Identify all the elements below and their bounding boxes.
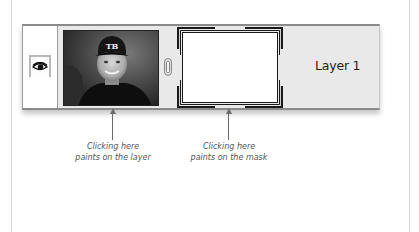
caption-mask-line2: paints on the mask — [169, 153, 289, 164]
pointer-line-mask — [228, 113, 229, 140]
caption-layer: Clicking here paints on the layer — [53, 142, 173, 163]
layer-mask-thumbnail[interactable] — [177, 27, 283, 108]
caption-mask: Clicking here paints on the mask — [169, 142, 289, 163]
layer-row[interactable]: TB Layer 1 — [22, 24, 380, 110]
layer-thumbnail[interactable]: TB — [63, 30, 159, 106]
page-margin-rule-left — [11, 0, 12, 232]
layer-name-label[interactable]: Layer 1 — [315, 58, 360, 73]
arrow-up-icon — [226, 108, 232, 114]
arrow-up-icon — [110, 108, 116, 114]
visibility-column — [23, 26, 58, 108]
caption-mask-line1: Clicking here — [169, 142, 289, 153]
page-margin-rule-right — [409, 0, 410, 232]
eye-icon — [32, 62, 48, 72]
svg-text:TB: TB — [106, 41, 119, 51]
visibility-toggle[interactable] — [29, 55, 51, 77]
caption-layer-line2: paints on the layer — [53, 153, 173, 164]
mask-preview — [182, 32, 278, 103]
chain-link-icon[interactable] — [164, 58, 172, 76]
pointer-line-layer — [112, 113, 113, 140]
caption-layer-line1: Clicking here — [53, 142, 173, 153]
boy-portrait-photo: TB — [64, 31, 159, 106]
